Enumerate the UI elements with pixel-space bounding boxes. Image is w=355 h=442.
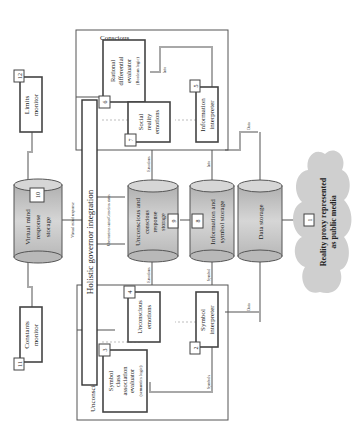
svg-text:response: response — [34, 215, 42, 240]
symbols-edge-label: Symbols — [206, 375, 211, 389]
svg-text:Symbol: Symbol — [199, 309, 207, 331]
svg-text:reality: reality — [145, 113, 152, 130]
holistic-label: Holistic governor integration — [85, 189, 95, 294]
symbol-class-association-evaluator: Symbol class association evaluator (sema… — [99, 344, 147, 412]
data-edge-label-1: Data — [246, 122, 251, 130]
svg-text:Limits: Limits — [23, 96, 31, 115]
svg-text:Unconscious and: Unconscious and — [134, 197, 142, 246]
unconscious-emotions: Unconscious emotions 4 — [124, 286, 160, 342]
information-symbol-storage: Information and symbol storage 8 — [190, 180, 234, 262]
rotated-diagram: Conscious Unconscious Holistic governor … — [0, 0, 355, 442]
svg-text:emotions: emotions — [145, 305, 152, 329]
svg-text:7: 7 — [128, 139, 134, 142]
limits-monitor: Limits monitor 12 — [14, 70, 42, 132]
svg-text:Information: Information — [199, 98, 207, 132]
svg-text:storage: storage — [160, 213, 166, 231]
info-edge-label-2: Info — [206, 161, 211, 168]
svg-text:Rational: Rational — [109, 60, 116, 82]
virtual-mind-response-storage: 10 Virtual mind response storage — [14, 179, 62, 263]
info-edge-label-1: Info — [162, 67, 167, 74]
svg-text:9: 9 — [171, 220, 177, 223]
svg-text:10: 10 — [35, 192, 41, 198]
symbol-edge-label: Symbol — [206, 268, 211, 281]
svg-text:interpreter: interpreter — [208, 305, 216, 335]
svg-text:11: 11 — [17, 361, 23, 367]
status-edge-label: Unconscious status/Conscious status — [107, 194, 111, 246]
svg-text:4: 4 — [127, 291, 133, 294]
svg-text:2: 2 — [193, 347, 199, 350]
svg-text:storage: storage — [44, 217, 52, 237]
rational-differential-evaluator: Rational differential evaluator (Boolean… — [99, 40, 145, 108]
svg-text:class: class — [114, 374, 121, 387]
unconscious-conscious-response-storage: Unconscious and conscious response stora… — [128, 180, 178, 262]
svg-text:evaluator: evaluator — [128, 368, 135, 393]
svg-text:evaluator: evaluator — [125, 58, 132, 83]
svg-text:monitor: monitor — [32, 93, 40, 116]
svg-text:Virtual mind: Virtual mind — [24, 209, 32, 245]
data-storage: Data storage — [238, 180, 282, 262]
svg-text:1: 1 — [307, 219, 313, 222]
constants-monitor: Constants monitor 11 — [14, 307, 42, 370]
svg-text:8: 8 — [195, 220, 201, 223]
reality-proxy-cloud: 1 Reality proxy represented as public me… — [293, 150, 352, 293]
social-reality-emotions: Social reality emotions 7 — [125, 102, 170, 146]
svg-text:(Boolean logic): (Boolean logic) — [135, 56, 140, 85]
svg-text:differential: differential — [117, 56, 124, 85]
emotions-edge-label-2: Emotions — [146, 267, 151, 283]
svg-text:association: association — [121, 366, 128, 396]
svg-text:symbol storage: symbol storage — [218, 201, 226, 244]
svg-text:interpreter: interpreter — [208, 100, 216, 130]
svg-text:conscious: conscious — [144, 210, 150, 234]
data-edge-label-2: Data — [246, 303, 251, 311]
virtual-response-edge-label: Virtual mind response — [70, 202, 75, 238]
svg-text:Unconscious: Unconscious — [136, 300, 143, 334]
svg-text:Symbol: Symbol — [107, 371, 114, 391]
svg-text:Reality proxy represented: Reality proxy represented — [319, 177, 328, 266]
svg-text:12: 12 — [17, 73, 23, 79]
svg-text:monitor: monitor — [32, 323, 40, 346]
information-interpreter: Information interpreter 5 — [190, 80, 218, 142]
svg-text:emotions: emotions — [153, 110, 160, 134]
svg-text:response: response — [152, 211, 158, 232]
emotions-edge-label-1: Emotions — [146, 156, 151, 172]
svg-text:6: 6 — [102, 101, 108, 104]
svg-text:as public media: as public media — [329, 195, 338, 248]
svg-text:5: 5 — [193, 85, 199, 88]
symbol-interpreter: Symbol interpreter 2 — [190, 292, 218, 354]
svg-text:Data storage: Data storage — [257, 204, 265, 239]
svg-text:Information and: Information and — [209, 199, 217, 245]
svg-text:Constants: Constants — [23, 321, 31, 349]
svg-text:3: 3 — [102, 349, 108, 352]
svg-text:Social: Social — [137, 114, 144, 130]
svg-text:(semantics logic): (semantics logic) — [138, 365, 143, 396]
